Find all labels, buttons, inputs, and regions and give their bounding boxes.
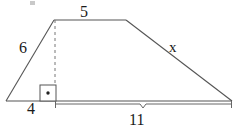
base-right-segment-label: 11 bbox=[129, 112, 144, 128]
trapezoid-drawing bbox=[0, 0, 240, 133]
base-brace bbox=[56, 101, 232, 108]
right-side-line bbox=[126, 20, 232, 101]
right-angle-dot-icon bbox=[46, 91, 49, 94]
geometry-figure: 5 6 x 4 11 bbox=[0, 0, 240, 133]
top-side-label: 5 bbox=[80, 4, 88, 20]
left-side-label: 6 bbox=[19, 40, 27, 56]
right-side-label: x bbox=[169, 40, 177, 55]
base-left-segment-label: 4 bbox=[27, 101, 35, 117]
